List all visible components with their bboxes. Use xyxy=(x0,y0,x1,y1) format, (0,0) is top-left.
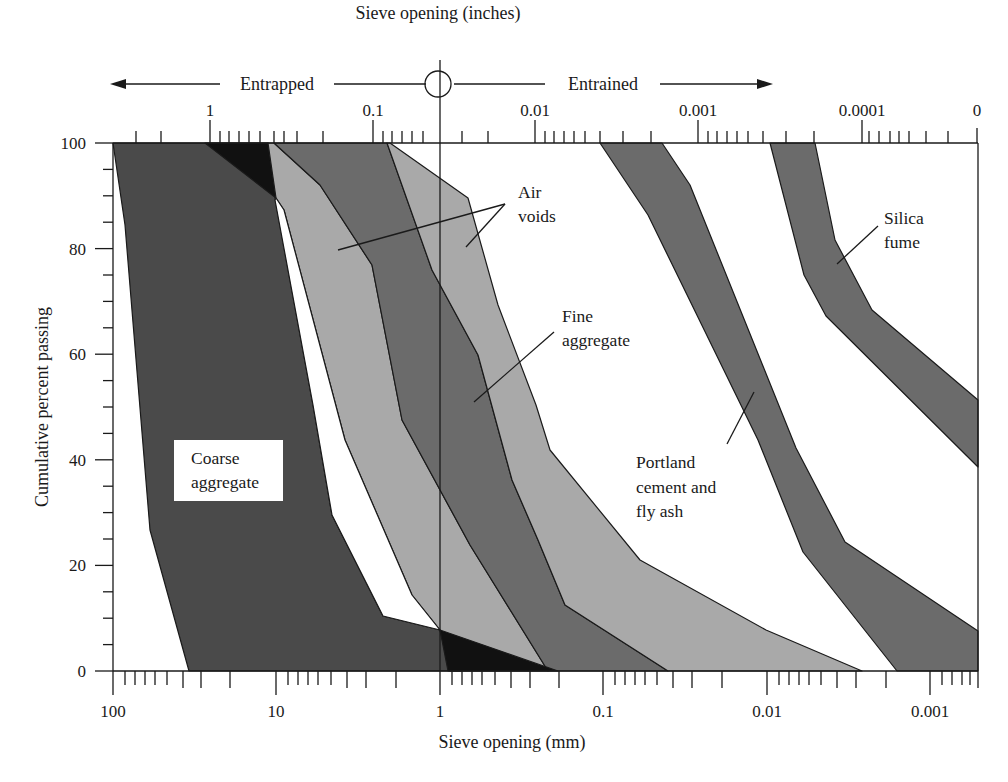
right-arrow-icon xyxy=(757,79,773,89)
entrained-label: Entrained xyxy=(568,74,638,94)
coarse-aggregate-label: aggregate xyxy=(191,472,259,492)
y-tick-label: 100 xyxy=(61,134,87,153)
top-tick-label: 1 xyxy=(206,101,215,120)
portland-cement-label: cement and xyxy=(636,477,716,497)
fine-aggregate-label: aggregate xyxy=(562,330,630,350)
gradation-chart: Sieve opening (inches) Entrapped Entrain… xyxy=(0,0,1008,782)
top-axis-title: Sieve opening (inches) xyxy=(356,3,521,24)
top-tick-label: 0.1 xyxy=(362,101,383,120)
coarse-aggregate-label: Coarse xyxy=(191,448,240,468)
left-arrow-icon xyxy=(110,79,126,89)
x-tick-label: 10 xyxy=(268,702,285,721)
y-tick-label: 0 xyxy=(78,662,87,681)
top-tick-label: 0.001 xyxy=(679,101,717,120)
y-ticks xyxy=(95,143,113,671)
top-tick-label: 0.0001 xyxy=(839,101,886,120)
air-voids-label: Air xyxy=(518,182,542,202)
portland-cement-label: Portland xyxy=(636,452,696,472)
x-tick-label: 1 xyxy=(436,702,445,721)
silica-fume-leader xyxy=(837,226,878,264)
x-ticks-bottom xyxy=(113,671,978,695)
entrapped-label: Entrapped xyxy=(240,74,314,94)
silica-fume-label: fume xyxy=(884,232,920,252)
air-voids-label: voids xyxy=(518,206,556,226)
y-tick-label: 20 xyxy=(69,556,86,575)
portland-cement-label: fly ash xyxy=(636,501,683,521)
x-tick-label: 0.1 xyxy=(592,702,613,721)
x-ticks-top xyxy=(136,120,977,143)
y-tick-label: 60 xyxy=(69,345,86,364)
fine-aggregate-label: Fine xyxy=(562,306,593,326)
silica-fume-band xyxy=(770,143,978,467)
crosshair-circle-icon xyxy=(425,71,451,97)
top-tick-label: 0 xyxy=(973,101,982,120)
silica-fume-label: Silica xyxy=(884,208,924,228)
x-axis-title: Sieve opening (mm) xyxy=(439,732,586,753)
y-axis-title: Cumulative percent passing xyxy=(32,307,52,507)
y-tick-label: 40 xyxy=(69,451,86,470)
top-tick-label: 0.01 xyxy=(520,101,550,120)
entrapped-entrained-header xyxy=(110,71,773,97)
y-tick-label: 80 xyxy=(69,240,86,259)
x-tick-label: 0.01 xyxy=(752,702,782,721)
x-tick-label: 100 xyxy=(100,702,126,721)
x-tick-label: 0.001 xyxy=(911,702,949,721)
